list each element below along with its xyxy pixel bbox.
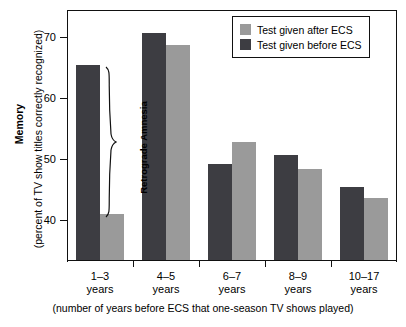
y-tick-40 (60, 220, 68, 221)
y-tick-label-70: 70 (34, 31, 56, 43)
x-axis-line (67, 260, 397, 261)
x-tick-3 (265, 260, 266, 267)
category-label-line-4-1: years (324, 283, 404, 296)
category-label-4: 10–17years (324, 270, 404, 295)
y-tick-70 (60, 37, 68, 38)
curly-brace-icon (104, 66, 117, 218)
x-tick-4 (331, 260, 332, 267)
y-tick-50 (60, 159, 68, 160)
legend-item-after[interactable]: Test given after ECS (240, 22, 361, 37)
x-tick-1 (133, 260, 134, 267)
legend-label-after: Test given after ECS (257, 24, 353, 36)
legend-swatch-icon-before (240, 39, 251, 50)
x-tick-2 (199, 260, 200, 267)
category-label-line-4-0: 10–17 (324, 270, 404, 283)
legend-item-before[interactable]: Test given before ECS (240, 37, 361, 52)
legend-label-before: Test given before ECS (257, 39, 361, 51)
x-axis-caption: (number of years before ECS that one-sea… (0, 302, 406, 314)
y-axis-title-bold: Memory (13, 94, 25, 154)
bar-chart-figure: Memory (percent of TV show titles correc… (0, 0, 406, 327)
retrograde-amnesia-annotation: Retrograde Amnesia (138, 93, 149, 203)
legend: Test given after ECS Test given before E… (232, 16, 370, 58)
y-tick-label-50: 50 (34, 153, 56, 165)
y-tick-60 (60, 98, 68, 99)
y-tick-label-40: 40 (34, 214, 56, 226)
legend-swatch-icon-after (240, 24, 251, 35)
y-tick-label-60: 60 (34, 92, 56, 104)
